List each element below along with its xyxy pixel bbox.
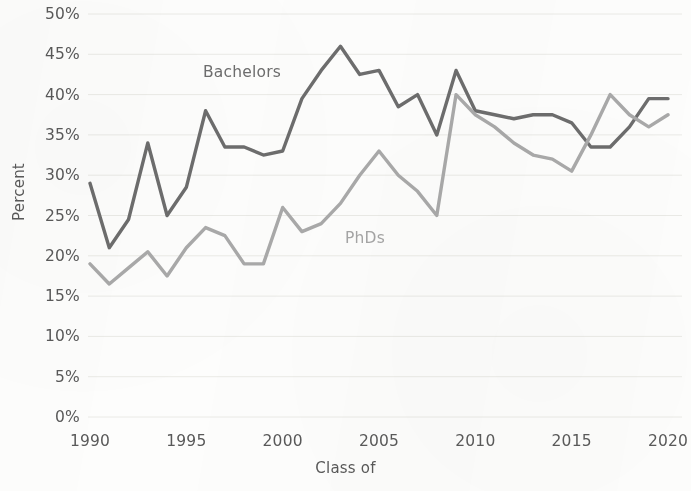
x-axis-tick-label: 2010 [455, 432, 495, 450]
x-axis-tick-label: 2005 [359, 432, 399, 450]
x-axis-tick-label: 2020 [648, 432, 688, 450]
data-series-group [90, 46, 668, 284]
series-line-bachelors [90, 46, 668, 248]
x-axis-tick-label: 2000 [263, 432, 303, 450]
series-label-bachelors: Bachelors [203, 63, 281, 81]
x-axis-tick-label: 2015 [552, 432, 592, 450]
chart-container: 0%5%10%15%20%25%30%35%40%45%50% Percent … [0, 0, 691, 491]
x-axis-tick-label: 1990 [70, 432, 110, 450]
gridlines [88, 14, 682, 417]
x-axis-tick-label: 1995 [166, 432, 206, 450]
series-label-phds: PhDs [345, 229, 385, 247]
